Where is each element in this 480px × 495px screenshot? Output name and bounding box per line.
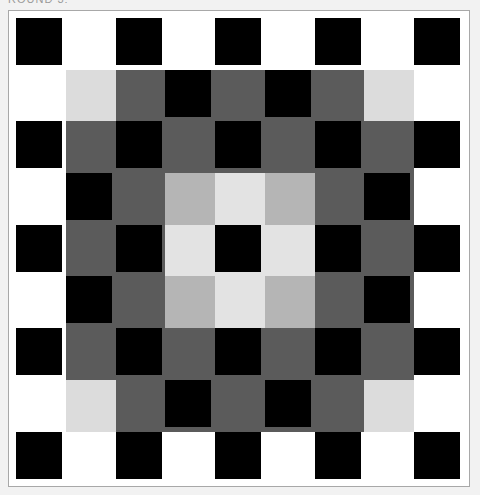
board-cell-r2-c1[interactable] — [66, 121, 116, 173]
board-cell-r6-c1[interactable] — [66, 328, 116, 380]
board-cell-r0-c2[interactable] — [116, 18, 166, 70]
board-cell-r8-c5[interactable] — [265, 432, 315, 484]
board-cell-r3-c4[interactable] — [215, 173, 265, 225]
board-cell-r4-c2[interactable] — [116, 225, 166, 277]
board-cell-r7-c6[interactable] — [315, 380, 365, 432]
board-cell-r5-c2[interactable] — [116, 276, 166, 328]
board-cell-r7-c3[interactable] — [165, 380, 215, 432]
board-cell-r6-c0[interactable] — [16, 328, 66, 380]
board-cell-r6-c7[interactable] — [364, 328, 414, 380]
board-cell-r8-c4[interactable] — [215, 432, 265, 484]
board-cell-r3-c8[interactable] — [414, 173, 464, 225]
board-cell-r5-c3[interactable] — [165, 276, 215, 328]
board-cell-r7-c5[interactable] — [265, 380, 315, 432]
board-cell-r1-c4[interactable] — [215, 70, 265, 122]
board-cell-r0-c7[interactable] — [364, 18, 414, 70]
board-cell-r7-c7[interactable] — [364, 380, 414, 432]
board-cell-r7-c0[interactable] — [16, 380, 66, 432]
board-cell-r3-c3[interactable] — [165, 173, 215, 225]
board-cell-r3-c6[interactable] — [315, 173, 365, 225]
board-cell-r7-c4[interactable] — [215, 380, 265, 432]
board-cell-r4-c7[interactable] — [364, 225, 414, 277]
board-cell-r7-c2[interactable] — [116, 380, 166, 432]
board-cell-r8-c6[interactable] — [315, 432, 365, 484]
board-cell-r5-c5[interactable] — [265, 276, 315, 328]
board-cell-r8-c0[interactable] — [16, 432, 66, 484]
board-cell-r1-c6[interactable] — [315, 70, 365, 122]
board-cell-r8-c3[interactable] — [165, 432, 215, 484]
board-cell-r0-c3[interactable] — [165, 18, 215, 70]
board-cell-r6-c2[interactable] — [116, 328, 166, 380]
board-cell-r5-c4[interactable] — [215, 276, 265, 328]
board-cell-r5-c0[interactable] — [16, 276, 66, 328]
board-cell-r0-c5[interactable] — [265, 18, 315, 70]
pattern-board — [16, 18, 464, 483]
board-cell-r2-c8[interactable] — [414, 121, 464, 173]
board-cell-r2-c3[interactable] — [165, 121, 215, 173]
board-cell-r4-c3[interactable] — [165, 225, 215, 277]
board-cell-r0-c4[interactable] — [215, 18, 265, 70]
board-cell-r4-c4[interactable] — [215, 225, 265, 277]
board-cell-r4-c1[interactable] — [66, 225, 116, 277]
board-cell-r5-c7[interactable] — [364, 276, 414, 328]
board-cell-r2-c0[interactable] — [16, 121, 66, 173]
board-cell-r6-c4[interactable] — [215, 328, 265, 380]
board-cell-r4-c0[interactable] — [16, 225, 66, 277]
puzzle-page: ROUND 3: — [0, 0, 480, 495]
board-cell-r2-c6[interactable] — [315, 121, 365, 173]
board-cell-r6-c6[interactable] — [315, 328, 365, 380]
board-cell-r2-c7[interactable] — [364, 121, 414, 173]
board-cell-r0-c1[interactable] — [66, 18, 116, 70]
board-cell-r3-c5[interactable] — [265, 173, 315, 225]
board-cell-r1-c5[interactable] — [265, 70, 315, 122]
board-cell-r6-c3[interactable] — [165, 328, 215, 380]
board-cell-r4-c5[interactable] — [265, 225, 315, 277]
board-cell-r8-c8[interactable] — [414, 432, 464, 484]
board-cell-r1-c2[interactable] — [116, 70, 166, 122]
round-title: ROUND 3: — [8, 0, 69, 5]
board-cell-r8-c1[interactable] — [66, 432, 116, 484]
board-cell-r3-c7[interactable] — [364, 173, 414, 225]
board-cell-r8-c7[interactable] — [364, 432, 414, 484]
board-cell-r2-c2[interactable] — [116, 121, 166, 173]
board-cell-r5-c1[interactable] — [66, 276, 116, 328]
board-cell-r1-c7[interactable] — [364, 70, 414, 122]
board-cell-r1-c8[interactable] — [414, 70, 464, 122]
board-cell-r3-c2[interactable] — [116, 173, 166, 225]
board-cell-r8-c2[interactable] — [116, 432, 166, 484]
board-cell-r0-c6[interactable] — [315, 18, 365, 70]
board-cell-r1-c3[interactable] — [165, 70, 215, 122]
board-cell-r5-c8[interactable] — [414, 276, 464, 328]
board-cell-r4-c6[interactable] — [315, 225, 365, 277]
board-cell-r0-c0[interactable] — [16, 18, 66, 70]
board-cell-r7-c8[interactable] — [414, 380, 464, 432]
board-cell-r5-c6[interactable] — [315, 276, 365, 328]
board-cell-r2-c4[interactable] — [215, 121, 265, 173]
board-cell-r6-c5[interactable] — [265, 328, 315, 380]
board-cell-r4-c8[interactable] — [414, 225, 464, 277]
board-cell-r0-c8[interactable] — [414, 18, 464, 70]
board-cell-r1-c0[interactable] — [16, 70, 66, 122]
board-cell-r1-c1[interactable] — [66, 70, 116, 122]
board-cell-r3-c1[interactable] — [66, 173, 116, 225]
board-cell-r3-c0[interactable] — [16, 173, 66, 225]
board-cell-r2-c5[interactable] — [265, 121, 315, 173]
board-cell-r7-c1[interactable] — [66, 380, 116, 432]
board-cell-r6-c8[interactable] — [414, 328, 464, 380]
